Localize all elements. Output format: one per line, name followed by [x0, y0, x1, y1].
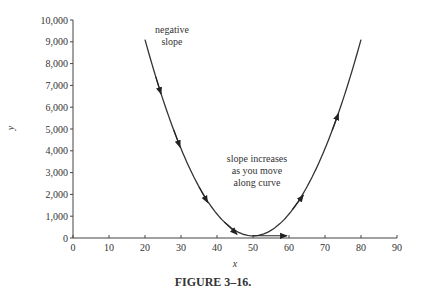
- y-tick-label: 0: [63, 233, 68, 244]
- y-tick-label: 5,000: [46, 124, 69, 135]
- x-tick-label: 50: [248, 242, 258, 253]
- y-tick-label: 1,000: [46, 211, 69, 222]
- x-axis-label: x: [232, 258, 238, 269]
- annotation-text: negative: [155, 24, 189, 35]
- curve-line: [145, 40, 361, 236]
- tangent-arrow: [199, 187, 208, 203]
- annotation-negative-slope: negative slope: [155, 24, 189, 47]
- x-tick-label: 80: [356, 242, 366, 253]
- x-tick-label: 70: [320, 242, 330, 253]
- annotation-text: along curve: [234, 177, 281, 188]
- y-tick-label: 10,000: [41, 15, 69, 26]
- x-tick-label: 0: [71, 242, 76, 253]
- y-tick-label: 9,000: [46, 36, 69, 47]
- x-tick-label: 40: [212, 242, 222, 253]
- y-axis-label: y: [5, 125, 16, 131]
- x-tick-label: 30: [176, 242, 186, 253]
- x-tick-label: 10: [104, 242, 114, 253]
- tangent-arrow: [224, 222, 237, 235]
- tangent-arrow: [293, 195, 304, 209]
- axes: [73, 20, 397, 238]
- x-tick-label: 90: [392, 242, 402, 253]
- y-tick-label: 7,000: [46, 80, 69, 91]
- annotation-text: slope increases: [227, 153, 287, 164]
- y-tick-label: 8,000: [46, 58, 69, 69]
- annotation-text: slope: [161, 36, 183, 47]
- tangent-arrow: [156, 77, 161, 94]
- y-tick-label: 3,000: [46, 167, 69, 178]
- y-tick-label: 2,000: [46, 189, 69, 200]
- y-tick-label: 4,000: [46, 145, 69, 156]
- x-tick-label: 20: [140, 242, 150, 253]
- chart-canvas: 010203040506070809001,0002,0003,0004,000…: [0, 0, 426, 299]
- figure-caption: FIGURE 3–16.: [0, 275, 426, 290]
- tangent-arrow: [332, 113, 338, 130]
- y-tick-label: 6,000: [46, 102, 69, 113]
- ticks: 010203040506070809001,0002,0003,0004,000…: [41, 15, 403, 254]
- x-tick-label: 60: [284, 242, 294, 253]
- tangent-arrow: [174, 130, 180, 147]
- annotation-slope-increases: slope increases as you move along curve: [227, 153, 287, 188]
- annotation-text: as you move: [232, 165, 283, 176]
